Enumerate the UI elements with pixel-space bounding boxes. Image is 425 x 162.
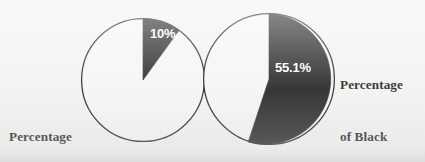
pie-chart-figure: 10% 55.1% Percentage of Black Americans … xyxy=(0,0,425,162)
caption-black-americans: Percentage of Black Americans xyxy=(9,93,72,162)
caption-left-line-1: Percentage xyxy=(9,128,72,145)
pie-slice-label-right: 55.1% xyxy=(275,60,312,75)
caption-right-line-1: Percentage xyxy=(340,76,403,93)
caption-black-americans-poverty: Percentage of Black Americans Living in … xyxy=(340,41,403,162)
caption-right-line-2: of Black xyxy=(340,128,403,145)
